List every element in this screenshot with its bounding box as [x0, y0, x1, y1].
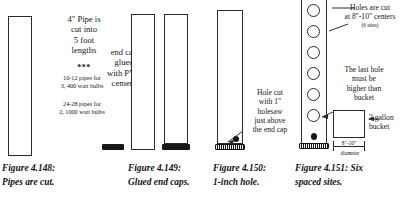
- caption-line: Pipes are cut.: [2, 176, 128, 190]
- end-cap-hatched: [299, 143, 329, 149]
- drilled-hole-dot: [233, 136, 239, 142]
- pipe-hole: [307, 4, 320, 17]
- annotation-line: higher than: [327, 84, 401, 93]
- annotation-line: just above: [239, 116, 301, 125]
- pipe-outline: [8, 16, 32, 156]
- annotation-line: 4" Pipe is: [42, 14, 126, 24]
- caption-figure-4-150: Figure 4.150: 1-inch hole.: [213, 162, 299, 189]
- annotation-line: 24-28 pipes for: [34, 100, 130, 108]
- annotation-last-hole: The last hole must be higher than bucket: [327, 65, 401, 102]
- annotation-line: bucket: [327, 93, 401, 102]
- caption-line: spaced sites.: [295, 176, 410, 190]
- annotation-holes-count: (6 sites): [333, 22, 407, 29]
- pipe-hole: [307, 109, 320, 122]
- annotation-line: bucket: [369, 122, 409, 131]
- caption-line: 1-inch hole.: [213, 176, 299, 190]
- end-cap-attached: [162, 144, 190, 150]
- annotation-line: must be: [327, 74, 401, 83]
- annotation-holes-spacing: Holes are cut at 8"-10" centers: [333, 3, 407, 22]
- pipe-outline: [131, 14, 155, 150]
- end-cap-left: [102, 144, 124, 150]
- annotation-line: The last hole: [327, 65, 401, 74]
- pipe-hole: [307, 88, 320, 101]
- panel-six-spaced-sites: Holes are cut at 8"-10" centers (6 sites…: [295, 0, 410, 203]
- pipe-outline: [164, 14, 188, 144]
- annotation-line: the end cap: [239, 125, 301, 134]
- pipe-hole: [307, 67, 320, 80]
- caption-line: Figure 4.149:: [128, 162, 220, 176]
- caption-line: Figure 4.150:: [213, 162, 299, 176]
- annotation-line: 3 gallon: [369, 113, 409, 122]
- annotation-line: at 8"-10" centers: [333, 12, 407, 21]
- dimension-label: diameter: [327, 150, 373, 157]
- annotation-line: 2, 1000 watt bulbs: [34, 108, 130, 116]
- pipe-hole: [307, 46, 320, 59]
- annotation-line: Holes are cut: [333, 3, 407, 12]
- annotation-line: with 1": [239, 97, 301, 106]
- annotation-line: 5 foot: [42, 35, 126, 45]
- caption-figure-4-148: Figure 4.148: Pipes are cut.: [2, 162, 128, 189]
- annotation-line: holesaw: [239, 107, 301, 116]
- annotation-line: cut into: [42, 24, 126, 34]
- end-cap-hatched: [215, 144, 245, 150]
- caption-line: Figure 4.148:: [2, 162, 128, 176]
- panel-glued-end-caps: end cap glued with PVC cement Figure 4.1…: [130, 0, 215, 203]
- dimension-value: 8"-10": [333, 140, 365, 147]
- panel-one-inch-hole: Hole cut with 1" holesaw just above the …: [215, 0, 295, 203]
- annotation-line: Hole cut: [239, 88, 301, 97]
- caption-figure-4-151: Figure 4.151: Six spaced sites.: [295, 162, 410, 189]
- annotation-bucket-label: 3 gallon bucket: [369, 113, 409, 132]
- caption-line: Glued end caps.: [128, 176, 220, 190]
- drilled-hole-dot: [311, 133, 317, 140]
- pipe-hole: [307, 25, 320, 38]
- annotation-hole-cut: Hole cut with 1" holesaw just above the …: [239, 88, 301, 134]
- caption-line: Figure 4.151: Six: [295, 162, 410, 176]
- annotation-note-1000w: 24-28 pipes for 2, 1000 watt bulbs: [34, 100, 130, 115]
- bucket-outline: [333, 110, 365, 138]
- panel-pipes-cut: 4" Pipe is cut into 5 foot lengths *** 1…: [0, 0, 130, 203]
- caption-figure-4-149: Figure 4.149: Glued end caps.: [128, 162, 220, 189]
